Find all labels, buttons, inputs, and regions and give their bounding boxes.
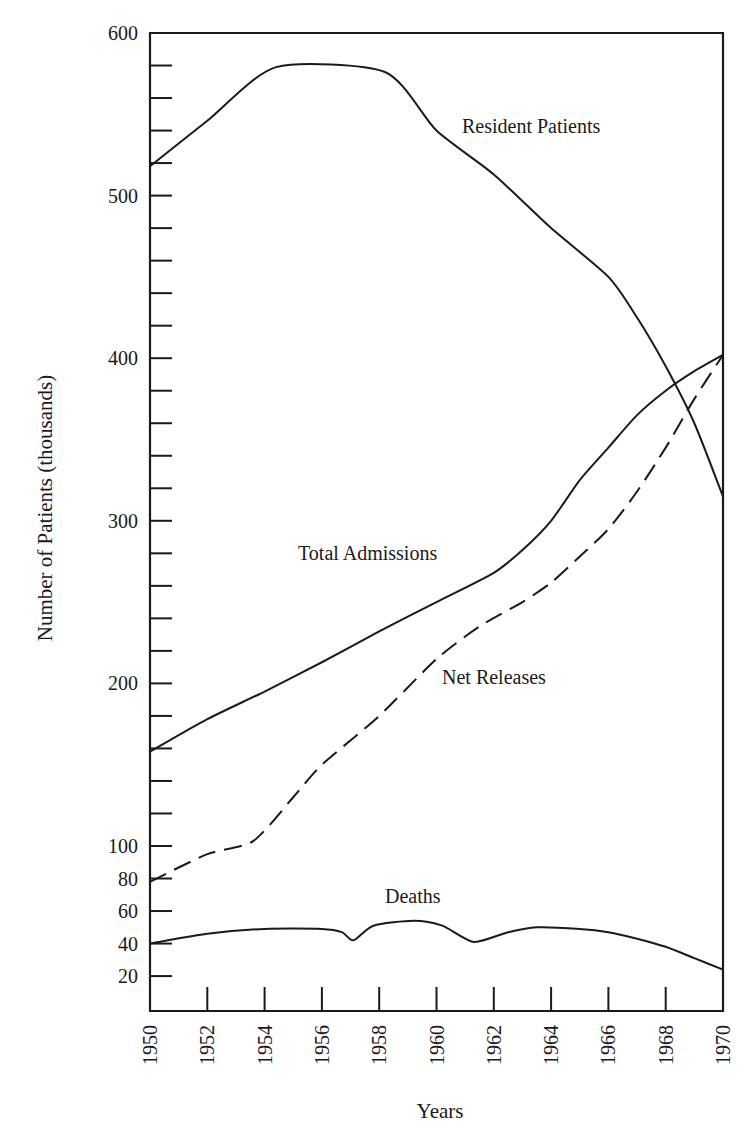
y-tick-label: 40 xyxy=(118,933,138,955)
x-tick-label: 1970 xyxy=(712,1025,734,1065)
x-tick-label: 1966 xyxy=(597,1025,619,1065)
x-tick-label: 1954 xyxy=(254,1025,276,1065)
y-tick-label: 600 xyxy=(108,22,138,44)
y-axis: 20406080100200300400500600 xyxy=(108,22,172,987)
y-tick-label: 60 xyxy=(118,900,138,922)
total-admissions-label: Total Admissions xyxy=(298,542,437,564)
resident-patients-line xyxy=(150,64,723,496)
chart: 20406080100200300400500600 1950195219541… xyxy=(0,0,756,1139)
plot-frame xyxy=(150,33,723,1011)
y-tick-label: 80 xyxy=(118,868,138,890)
x-tick-label: 1952 xyxy=(196,1025,218,1065)
y-tick-label: 500 xyxy=(108,185,138,207)
y-tick-label: 400 xyxy=(108,347,138,369)
deaths-line xyxy=(150,921,723,970)
x-tick-label: 1960 xyxy=(426,1025,448,1065)
y-tick-label: 100 xyxy=(108,835,138,857)
resident-patients-label: Resident Patients xyxy=(462,115,601,137)
y-tick-label: 200 xyxy=(108,672,138,694)
x-tick-label: 1968 xyxy=(655,1025,677,1065)
x-tick-label: 1956 xyxy=(311,1025,333,1065)
x-tick-label: 1958 xyxy=(368,1025,390,1065)
deaths-label: Deaths xyxy=(385,885,441,907)
series-lines xyxy=(150,64,723,969)
net-releases-label: Net Releases xyxy=(442,666,546,688)
y-axis-title: Number of Patients (thousands) xyxy=(33,375,57,642)
x-tick-label: 1962 xyxy=(483,1025,505,1065)
y-tick-label: 300 xyxy=(108,510,138,532)
x-tick-label: 1950 xyxy=(139,1025,161,1065)
net-releases-line xyxy=(150,355,723,882)
x-axis-title: Years xyxy=(417,1099,464,1123)
series-labels: Resident PatientsTotal AdmissionsNet Rel… xyxy=(298,115,601,907)
x-tick-label: 1964 xyxy=(540,1025,562,1065)
y-tick-label: 20 xyxy=(118,965,138,987)
plot-border xyxy=(150,33,723,1011)
x-axis: 1950195219541956195819601962196419661968… xyxy=(139,987,734,1065)
